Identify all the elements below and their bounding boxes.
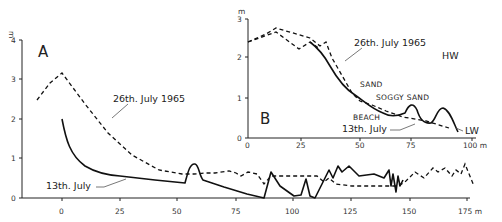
a-y-tick: 1 [11, 154, 16, 163]
a-x-tick: 100 [285, 207, 300, 216]
panel-a-label: A [38, 43, 49, 61]
b-x-tick: 75 [406, 141, 416, 150]
b-x-tick: 0 [245, 141, 250, 150]
b-label-13-july: 13th. July [342, 123, 387, 134]
b-label-lw: LW [465, 125, 479, 136]
a-x-tick: 125 [343, 207, 358, 216]
b-y-tick: 1 [237, 94, 242, 103]
b-x-tick: 100 m [463, 141, 487, 150]
panel-b-label: B [260, 110, 270, 128]
a-x-tick: 75 [231, 207, 241, 216]
b-label-26-july-1965: 26th. July 1965 [354, 37, 426, 48]
b-y-tick: 0 [237, 134, 242, 143]
a-y-tick: 4 [11, 36, 16, 45]
b-label-sand: SAND [360, 80, 383, 89]
b-y-tick: 2 [237, 53, 242, 62]
b-label-hw: HW [442, 50, 459, 61]
a-x-tick: 150 [402, 207, 417, 216]
b-label-soggy-sand: SOGGY SAND [376, 93, 429, 102]
a-x-tick: 50 [172, 207, 182, 216]
a-x-tick: 0 [59, 207, 64, 216]
a-x-tick: 25 [115, 207, 125, 216]
b-x-tick: 50 [355, 141, 365, 150]
b-label-beach: BEACH [353, 113, 380, 122]
a-label-26-july-1965: 26th. July 1965 [113, 93, 185, 104]
a-y-tick: 0 [11, 194, 16, 203]
a-y-tick: 3 [11, 75, 16, 84]
a-y-tick: 2 [11, 115, 16, 124]
b-y-tick: 3 [237, 15, 242, 24]
a-label-13-july: 13th. July [46, 180, 91, 191]
b-x-tick: 25 [296, 141, 306, 150]
a-x-tick: 175 m [458, 207, 482, 216]
panel-b: m 3 2 1 0 0 25 50 75 100 m B 26th. July … [232, 7, 500, 150]
beach-profile-figure: m 4 3 2 1 0 0 25 50 75 100 125 150 175 m… [0, 0, 502, 222]
